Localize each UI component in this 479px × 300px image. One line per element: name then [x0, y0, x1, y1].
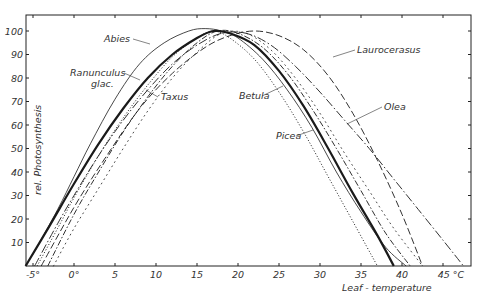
series-label: Olea — [384, 101, 406, 112]
series-label: Laurocerasus — [357, 44, 421, 55]
y-tick-label: 10 — [11, 237, 23, 248]
x-tick-label: 35 — [355, 269, 367, 280]
series-label: glac. — [91, 78, 114, 89]
y-axis-title: rel. Photosynthesis — [32, 105, 43, 195]
series-curves — [26, 29, 464, 266]
series-label: Betula — [239, 90, 270, 101]
y-tick-label: 70 — [11, 96, 23, 107]
x-tick-label: 25 — [273, 269, 285, 280]
label-leader-line — [133, 39, 150, 44]
curve-abies — [33, 29, 406, 266]
y-tick-label: 60 — [11, 120, 23, 131]
series-label: Taxus — [161, 91, 188, 102]
photosynthesis-temperature-chart: 102030405060708090100 -5°0°5101520253035… — [0, 0, 479, 300]
y-tick-label: 40 — [11, 167, 23, 178]
y-tick-label: 80 — [11, 73, 23, 84]
x-tick-label: 0° — [69, 269, 80, 280]
x-tick-label: 20 — [232, 269, 244, 280]
y-tick-label: 50 — [11, 143, 23, 154]
x-tick-label: 15 — [191, 269, 203, 280]
x-tick-label: 30 — [314, 269, 326, 280]
x-tick-label: 5 — [112, 269, 118, 280]
y-tick-label: 20 — [11, 214, 23, 225]
curve-taxus — [48, 30, 410, 266]
x-tick-label: 45 °C — [438, 269, 465, 280]
label-leader-line — [333, 50, 355, 57]
y-tick-label: 30 — [11, 190, 23, 201]
y-axis-ticks: 102030405060708090100 — [5, 26, 471, 249]
x-axis-title: Leaf - temperature — [342, 282, 432, 293]
x-tick-label: -5° — [26, 269, 40, 280]
curve-ranunculus-glac — [26, 31, 394, 266]
y-tick-label: 100 — [5, 26, 23, 37]
series-label: Ranunculus — [70, 67, 125, 78]
x-tick-label: 10 — [150, 269, 162, 280]
series-label: Abies — [103, 33, 130, 44]
y-tick-label: 90 — [11, 49, 23, 60]
label-leader-line — [347, 107, 382, 124]
x-tick-label: 40 — [396, 269, 408, 280]
